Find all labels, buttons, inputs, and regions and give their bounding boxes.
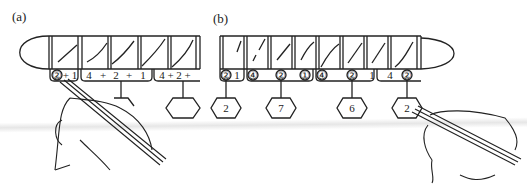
hexagon-a-partial (114, 98, 134, 106)
svg-text:4: 4 (86, 69, 92, 81)
svg-text:1: 1 (369, 69, 375, 81)
svg-text:2: 2 (113, 69, 119, 81)
svg-text:②: ② (221, 69, 231, 81)
figure: (a) (b) (0, 0, 527, 193)
group-a1-plus: + 1 (63, 69, 77, 81)
svg-text:1: 1 (140, 69, 146, 81)
svg-text:4: 4 (387, 69, 393, 81)
hex-result-2: 7 (278, 102, 284, 114)
svg-text:④: ④ (248, 69, 258, 81)
svg-text:4 + 2 +: 4 + 2 + (159, 69, 191, 81)
hexagon-a-empty (166, 98, 200, 118)
hand-with-pencil-b (412, 106, 521, 183)
labels-b: ② 1 ④ ② ① ④ ② 1 4 ② 2 7 6 2 (221, 69, 412, 114)
group-a1-digit: ② (52, 69, 62, 81)
svg-text:②: ② (347, 69, 357, 81)
svg-text:④: ④ (317, 69, 327, 81)
hex-result-4: 2 (404, 102, 410, 114)
hand-with-pencil-a (55, 79, 166, 170)
svg-text:②: ② (276, 69, 286, 81)
strip-a-rounded-end (20, 36, 49, 69)
labels-a: ② + 1 4 + 2 + 1 4 + 2 + (52, 69, 191, 81)
svg-text:+: + (126, 69, 132, 81)
hex-result-3: 6 (349, 102, 355, 114)
svg-text:①: ① (300, 69, 310, 81)
strip-b-rounded-end (421, 38, 454, 69)
diagram-svg: ② + 1 4 + 2 + 1 4 + 2 + ② 1 ④ ② ① ④ ② 1 … (0, 0, 527, 193)
hex-result-1: 2 (223, 102, 229, 114)
svg-text:1: 1 (234, 69, 240, 81)
svg-text:②: ② (402, 69, 412, 81)
svg-text:+: + (100, 69, 106, 81)
